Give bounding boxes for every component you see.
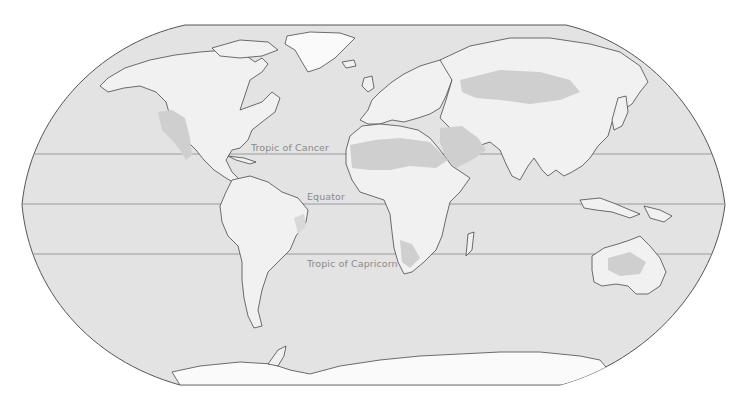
world-map [0,0,729,405]
equator-label: Equator [307,191,345,202]
tropic-of-capricorn-label: Tropic of Capricorn [307,258,398,269]
tropic-of-cancer-label: Tropic of Cancer [251,142,329,153]
